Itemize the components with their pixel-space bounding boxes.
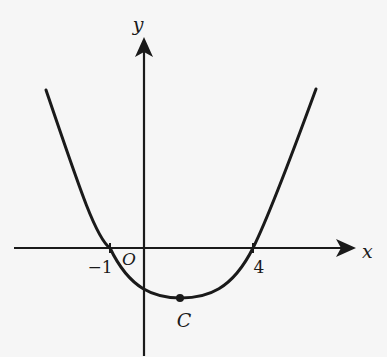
vertex-point <box>176 294 184 302</box>
x-axis-label: x <box>362 240 373 262</box>
origin-label: O <box>122 249 136 269</box>
root-right-label: 4 <box>254 257 265 277</box>
y-axis-label: y <box>132 13 144 35</box>
vertex-label: C <box>177 309 192 331</box>
parabola-diagram: y x O −1 4 C <box>0 0 387 357</box>
root-left-label: −1 <box>87 257 112 277</box>
